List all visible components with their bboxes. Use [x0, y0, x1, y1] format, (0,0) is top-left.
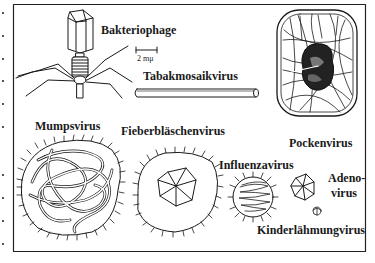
label-pox-virus: Pockenvirus: [289, 137, 352, 149]
label-fever-blister-virus: Fieberbläschenvirus: [121, 125, 225, 137]
label-bacteriophage: Bakteriophage: [101, 24, 176, 36]
scale-bar: [136, 47, 157, 53]
adenovirus-drawing: [291, 174, 314, 200]
label-polio-virus: Kinderlähmungvirus: [257, 224, 365, 236]
label-scale: 2 mμ: [137, 55, 154, 63]
pox-virus-drawing: [277, 10, 357, 116]
virus-diagram: Bakteriophage 2 mμ Tabakmosaikvirus Pock…: [0, 0, 375, 263]
label-adenovirus-line1: Adeno-: [328, 172, 365, 184]
polio-virus-drawing: [313, 207, 321, 215]
tobacco-mosaic-drawing: [135, 89, 259, 97]
label-adenovirus-line2: virus: [331, 187, 357, 199]
label-influenza-virus: Influenzavirus: [219, 159, 294, 171]
label-mumps-virus: Mumpsvirus: [35, 120, 100, 132]
label-tobacco-mosaic-virus: Tabakmosaikvirus: [143, 70, 238, 82]
mumps-virus-drawing: [17, 135, 125, 240]
fever-blister-virus-drawing: [133, 147, 223, 237]
influenza-virus-drawing: [228, 172, 278, 222]
